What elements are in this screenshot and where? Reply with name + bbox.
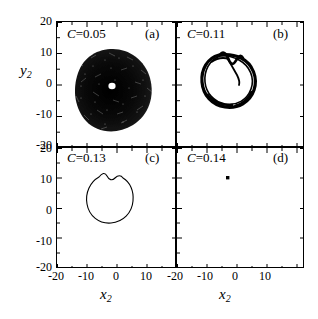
panel-b-label: (b) bbox=[273, 26, 288, 42]
xtick-label-left-10: 10 bbox=[134, 269, 158, 284]
ytick-label-bot-20: 20 bbox=[24, 141, 52, 156]
panel-c-plot bbox=[57, 148, 176, 268]
panel-c-label: (c) bbox=[145, 150, 159, 166]
panel-c-parameter-label: C=0.13 bbox=[67, 150, 106, 166]
panel-d-label: (d) bbox=[273, 150, 288, 166]
panel-b-parameter-name: C bbox=[187, 26, 196, 41]
panel-c-parameter-value: 0.13 bbox=[83, 150, 106, 165]
panel-a-parameter-name: C bbox=[67, 26, 76, 41]
xtick-label-right-m10: -10 bbox=[193, 269, 217, 284]
xtick-label-left-m10: -10 bbox=[74, 269, 98, 284]
panel-d-parameter-value: 0.14 bbox=[203, 150, 226, 165]
panel-a-parameter-label: C=0.05 bbox=[67, 26, 106, 42]
figure-phase-portraits: y2 20 10 0 -10 -20 20 10 0 -10 -20 -20 -… bbox=[0, 0, 318, 319]
panel-d-parameter-label: C=0.14 bbox=[187, 150, 226, 166]
panel-b-parameter-label: C=0.11 bbox=[187, 26, 225, 42]
ytick-label-bot-m10: -10 bbox=[24, 234, 52, 249]
panel-d-ticks bbox=[177, 148, 304, 268]
x-axis-label-left: x2 bbox=[100, 286, 112, 304]
xtick-label-left-0: 0 bbox=[104, 269, 128, 284]
panel-a-label: (a) bbox=[145, 26, 159, 42]
panel-a-attractor bbox=[75, 49, 152, 131]
xtick-label-left-m20: -20 bbox=[44, 269, 68, 284]
x-axis-label-right-subscript: 2 bbox=[226, 293, 231, 304]
xtick-label-right-0: 0 bbox=[223, 269, 247, 284]
panel-c-parameter-name: C bbox=[67, 150, 76, 165]
ytick-label-bot-0: 0 bbox=[24, 203, 52, 218]
panel-d-fixed-point bbox=[226, 176, 229, 179]
ytick-label-bot-10: 10 bbox=[24, 172, 52, 187]
panel-b-attractor bbox=[202, 53, 255, 108]
panel-b-parameter-value: 0.11 bbox=[203, 26, 225, 41]
panel-c-attractor bbox=[87, 173, 134, 223]
panel-a-parameter-value: 0.05 bbox=[83, 26, 106, 41]
panel-c-ticks bbox=[57, 148, 176, 268]
panel-a-center-hole bbox=[108, 83, 115, 89]
xtick-label-right-m20: -20 bbox=[163, 269, 187, 284]
panel-d-parameter-name: C bbox=[187, 150, 196, 165]
x-axis-label-right: x2 bbox=[219, 286, 231, 304]
panel-d: C=0.14 (d) bbox=[176, 147, 304, 268]
panel-b: C=0.11 (b) bbox=[176, 21, 304, 147]
x-axis-label-right-text: x bbox=[219, 286, 226, 302]
xtick-label-right-10: 10 bbox=[253, 269, 277, 284]
ytick-label-top-10: 10 bbox=[24, 45, 52, 60]
panel-d-plot bbox=[177, 148, 304, 268]
ytick-label-top-0: 0 bbox=[24, 76, 52, 91]
x-axis-label-left-subscript: 2 bbox=[107, 293, 112, 304]
panel-c: C=0.13 (c) bbox=[56, 147, 176, 268]
ytick-label-top-m10: -10 bbox=[24, 107, 52, 122]
ytick-label-top-20: 20 bbox=[24, 14, 52, 29]
x-axis-label-left-text: x bbox=[100, 286, 107, 302]
panel-a: C=0.05 (a) bbox=[56, 21, 176, 147]
